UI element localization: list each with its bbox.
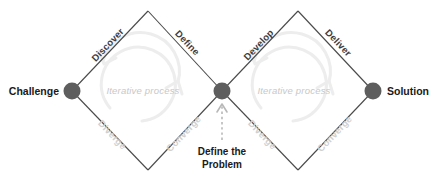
label-converge-2: Converge	[315, 113, 354, 154]
label-iterative-process-1: Iterative process	[106, 85, 179, 96]
callout-line-1: Define the	[198, 146, 247, 157]
label-solution: Solution	[387, 85, 429, 97]
edge-discover	[72, 11, 148, 91]
edge-deliver	[298, 11, 373, 91]
label-iterative-process-2: Iterative process	[257, 85, 330, 96]
double-diamond-diagram: Challenge Solution Discover Define Diver…	[0, 0, 445, 181]
label-diverge-2: Diverge	[246, 118, 279, 152]
label-develop: Develop	[241, 27, 275, 62]
diagram-canvas: Challenge Solution Discover Define Diver…	[0, 0, 445, 181]
edge-define	[148, 11, 222, 91]
label-diverge-1: Diverge	[96, 118, 129, 152]
callout-line-2: Problem	[202, 159, 242, 170]
label-challenge: Challenge	[9, 85, 59, 97]
edge-develop	[222, 11, 298, 91]
node-solution[interactable]	[365, 83, 382, 100]
define-the-problem-callout: Define the Problem	[198, 104, 247, 170]
node-define-the-problem[interactable]	[214, 83, 231, 100]
label-discover: Discover	[89, 26, 126, 64]
node-challenge[interactable]	[64, 83, 81, 100]
